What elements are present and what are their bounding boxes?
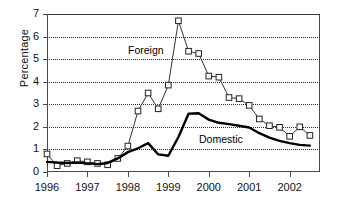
data-point-marker (257, 116, 263, 122)
data-point-marker (267, 123, 273, 129)
data-point-marker (145, 90, 151, 96)
data-point-marker (246, 103, 252, 109)
data-point-marker (206, 73, 212, 79)
data-point-marker (287, 134, 293, 140)
y-axis-tick-label: 2 (13, 121, 39, 132)
series-label-domestic: Domestic (199, 133, 243, 145)
x-axis-tick (128, 172, 129, 177)
data-point-marker (186, 48, 192, 54)
series-label-foreign: Foreign (128, 44, 164, 56)
data-point-marker (277, 125, 283, 131)
x-axis-tick (87, 172, 88, 177)
y-axis-tick-label: 0 (13, 166, 39, 177)
x-axis-tick-label: 2001 (226, 182, 272, 193)
data-point-marker (196, 51, 202, 57)
y-axis-tick-label: 4 (13, 76, 39, 87)
x-axis-tick-label: 2002 (267, 182, 313, 193)
x-axis-tick (209, 172, 210, 177)
data-point-marker (44, 151, 50, 157)
x-axis-tick-label: 1996 (24, 182, 70, 193)
y-axis-tick-label: 5 (13, 53, 39, 64)
x-axis-tick-label: 1998 (105, 182, 151, 193)
x-axis-tick-label: 1997 (64, 182, 110, 193)
y-axis-tick-label: 6 (13, 31, 39, 42)
y-axis-tick-label: 1 (13, 143, 39, 154)
data-point-marker (176, 18, 182, 24)
x-axis-tick (290, 172, 291, 177)
data-point-marker (297, 124, 303, 130)
data-point-marker (226, 95, 232, 101)
data-point-marker (216, 74, 222, 80)
data-point-marker (125, 143, 131, 149)
data-point-marker (307, 133, 313, 139)
y-axis-tick-label: 7 (13, 8, 39, 19)
x-axis-tick (249, 172, 250, 177)
y-axis-tick-label: 3 (13, 98, 39, 109)
plot-area: ForeignDomestic (47, 14, 320, 172)
x-axis-tick-label: 1999 (145, 182, 191, 193)
x-axis-tick (168, 172, 169, 177)
data-point-marker (236, 96, 242, 102)
data-point-marker (135, 108, 141, 114)
series-line-foreign (47, 21, 310, 166)
chart-container: Percentage 01234567 19961997199819992000… (0, 0, 342, 212)
data-point-marker (155, 106, 161, 112)
data-point-marker (166, 82, 172, 88)
series-layer (47, 14, 320, 172)
series-line-domestic (47, 113, 310, 164)
x-axis-tick-label: 2000 (186, 182, 232, 193)
x-axis-tick (47, 172, 48, 177)
